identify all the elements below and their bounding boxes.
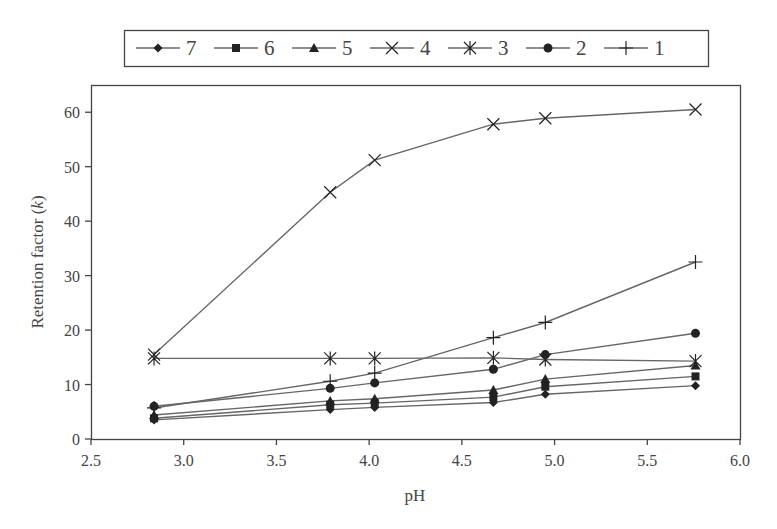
y-tick-label: 30	[64, 268, 80, 285]
x-tick-label: 6.0	[730, 452, 750, 469]
series-1-marker	[368, 366, 382, 380]
x-tick-label: 5.0	[545, 452, 565, 469]
chart: 7654321 0102030405060 2.53.03.54.04.55.0…	[0, 0, 777, 529]
y-tick-label: 50	[64, 159, 80, 176]
legend-label: 4	[420, 36, 431, 60]
series-1-line	[154, 262, 696, 408]
x-tick-label: 4.0	[359, 452, 379, 469]
legend-label: 3	[498, 36, 509, 60]
series-6-marker	[541, 383, 549, 391]
x-tick-label: 2.5	[81, 452, 101, 469]
y-axis-title: Retention factor (k)	[28, 195, 47, 328]
series-4-marker	[324, 186, 336, 198]
legend-2-marker	[544, 44, 553, 53]
x-tick-label: 3.5	[266, 452, 286, 469]
x-axis-title: pH	[405, 486, 426, 505]
y-tick-label: 0	[72, 431, 80, 448]
legend-label: 6	[264, 36, 275, 60]
x-axis: 2.53.03.54.04.55.05.56.0	[81, 439, 750, 469]
series-1-marker	[486, 331, 500, 345]
x-tick-label: 4.5	[452, 452, 472, 469]
x-tick-label: 5.5	[637, 452, 657, 469]
y-tick-label: 60	[64, 104, 80, 121]
legend-6-marker	[232, 44, 240, 52]
y-tick-label: 20	[64, 322, 80, 339]
series-lines	[154, 110, 696, 420]
series-1-marker	[147, 401, 161, 415]
series-1-marker	[538, 315, 552, 329]
y-tick-label: 40	[64, 213, 80, 230]
y-axis: 0102030405060	[64, 104, 91, 448]
legend: 7654321	[125, 31, 709, 67]
series-4-line	[154, 110, 696, 355]
series-7-marker	[691, 381, 700, 390]
series-markers	[147, 104, 702, 425]
series-2-marker	[489, 365, 498, 374]
series-1-marker	[323, 374, 337, 388]
series-7-line	[154, 386, 696, 420]
legend-label: 7	[186, 36, 197, 60]
legend-label: 1	[654, 36, 665, 60]
series-4-marker	[369, 154, 381, 166]
y-tick-label: 10	[64, 377, 80, 394]
plot-area: 0102030405060 2.53.03.54.04.55.05.56.0	[64, 86, 750, 470]
x-tick-label: 3.0	[174, 452, 194, 469]
series-1-marker	[688, 255, 702, 269]
series-6-marker	[489, 393, 497, 401]
series-2-marker	[691, 329, 700, 338]
series-7-marker	[541, 390, 550, 399]
plot-frame	[92, 86, 741, 440]
series-6-marker	[691, 372, 699, 380]
legend-label: 5	[342, 36, 353, 60]
legend-label: 2	[576, 36, 587, 60]
series-2-marker	[541, 350, 550, 359]
